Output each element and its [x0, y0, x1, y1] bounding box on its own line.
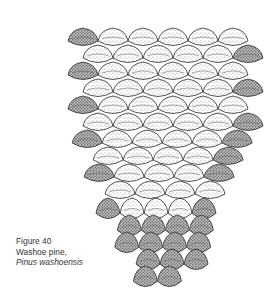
figure-number: Figure 40: [16, 236, 83, 247]
cone-body: [68, 28, 263, 287]
figure-caption: Figure 40 Washoe pine, Pinus washoensis: [16, 236, 83, 268]
scientific-name: Pinus washoensis: [16, 257, 83, 268]
common-name: Washoe pine,: [16, 247, 83, 258]
